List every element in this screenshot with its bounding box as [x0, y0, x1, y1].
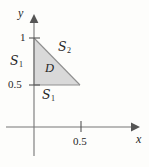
math-figure: y x 1 0.5 0.5 D S1 S2 S1	[0, 0, 149, 167]
y-tick-label-1: 1	[20, 32, 26, 43]
x-tick-label-0-5: 0.5	[73, 136, 87, 147]
x-axis-label: x	[136, 133, 141, 145]
y-tick-label-0-5: 0.5	[8, 79, 22, 90]
script-s-subscript: 1	[51, 94, 55, 103]
script-s-glyph: S	[58, 39, 67, 54]
region-d-label: D	[45, 62, 54, 75]
boundary-label-bottom-s1: S1	[42, 89, 55, 103]
y-axis-arrow	[30, 14, 39, 23]
script-s-subscript: 2	[67, 46, 71, 55]
script-s-subscript: 1	[19, 60, 23, 69]
script-s-glyph: S	[42, 87, 51, 102]
script-s-glyph: S	[10, 53, 19, 68]
y-axis-label: y	[18, 7, 23, 19]
boundary-label-left-s1: S1	[10, 55, 23, 69]
boundary-label-hypotenuse-s2: S2	[58, 41, 71, 55]
x-axis-arrow	[131, 123, 140, 132]
